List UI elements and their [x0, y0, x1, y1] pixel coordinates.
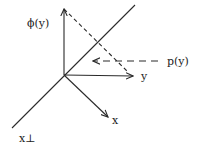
- projection-diagram: ϕ(y) p(y) y x x⊥: [0, 0, 203, 147]
- x-label: x: [112, 114, 119, 127]
- projection-dashed-line: [64, 9, 128, 72]
- p-y-label: p(y): [167, 55, 189, 68]
- x-perp-label: x⊥: [19, 132, 36, 145]
- x-axis-arrow: [64, 75, 108, 117]
- y-axis-arrow: [64, 75, 133, 76]
- phi-y-label: ϕ(y): [27, 17, 49, 30]
- y-label: y: [140, 70, 148, 83]
